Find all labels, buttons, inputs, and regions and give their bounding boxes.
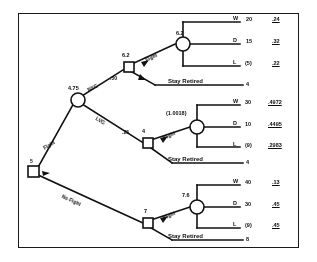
- outcome-payoff-bot-l: (9): [245, 223, 252, 229]
- root-decision-node: [28, 166, 39, 177]
- figure-canvas: 5 4.75 Fight No Fight NYC .50 LVG .25 6.…: [0, 0, 317, 262]
- outcome-prob-top-w: .24: [272, 17, 280, 23]
- outcome-prob-mid-d: .4495: [268, 122, 282, 128]
- chance-value-bottom: 7.6: [182, 193, 190, 199]
- outcome-code-top-l: L: [233, 60, 236, 66]
- root-node-value: 5: [30, 159, 33, 164]
- outcome-code-mid-w: W: [233, 99, 238, 105]
- chance-node-bottom: [190, 200, 204, 214]
- outcome-code-mid-l: L: [233, 142, 236, 148]
- outcome-code-bot-w: W: [233, 179, 238, 185]
- outcome-prob-mid-w: .4972: [268, 100, 282, 106]
- decision-tree-graphic: [0, 0, 317, 262]
- chance-value-middle: (1.0018): [166, 111, 187, 117]
- chance-value-top: 6.2: [176, 31, 184, 37]
- stay-retired-label-top: Stay Retired: [168, 78, 203, 84]
- outcome-payoff-top-d: 15: [246, 39, 252, 45]
- outcome-payoff-top-l: (5): [245, 61, 252, 67]
- outcome-payoff-top-w: 20: [246, 17, 252, 23]
- outcome-prob-bot-d: .45: [272, 202, 280, 208]
- stay-retired-payoff-middle: 4: [246, 160, 249, 166]
- outcome-code-top-d: D: [233, 38, 237, 44]
- decision-value-bottom: 7: [144, 209, 147, 215]
- stay-retired-label-middle: Stay Retired: [168, 156, 203, 162]
- branch-prob-mid: .25: [122, 130, 129, 135]
- outcome-payoff-bot-w: 40: [245, 180, 251, 186]
- outcome-prob-bot-l: .45: [272, 223, 280, 229]
- branch-prob-top: .50: [110, 76, 117, 81]
- stay-retired-payoff-top: 4: [246, 82, 249, 88]
- decision-node-bottom: [143, 218, 153, 228]
- outcome-prob-top-l: .22: [272, 61, 280, 67]
- decision-node-top: [124, 62, 134, 72]
- decision-value-middle: 4: [142, 129, 145, 135]
- outcome-prob-mid-l: .2983: [268, 143, 282, 149]
- outcome-payoff-bot-d: 30: [245, 202, 251, 208]
- chance-root-value: 4.75: [68, 86, 79, 92]
- chance-node-root: [71, 93, 85, 107]
- outcome-payoff-mid-w: 30: [245, 100, 251, 106]
- stay-retired-payoff-bottom: 8: [246, 237, 249, 243]
- outcome-code-top-w: W: [233, 16, 238, 22]
- outcome-code-mid-d: D: [233, 121, 237, 127]
- stay-retired-label-bottom: Stay Retired: [168, 233, 203, 239]
- outcome-payoff-mid-d: 10: [245, 122, 251, 128]
- outcome-code-bot-d: D: [233, 201, 237, 207]
- outcome-payoff-mid-l: (9): [245, 143, 252, 149]
- chance-node-middle: [190, 120, 204, 134]
- chance-node-top: [176, 37, 190, 51]
- decision-node-middle: [143, 138, 153, 148]
- outcome-code-bot-l: L: [233, 222, 236, 228]
- outcome-prob-top-d: .32: [272, 39, 280, 45]
- outcome-prob-bot-w: .13: [272, 180, 280, 186]
- decision-value-top: 6.2: [122, 53, 130, 59]
